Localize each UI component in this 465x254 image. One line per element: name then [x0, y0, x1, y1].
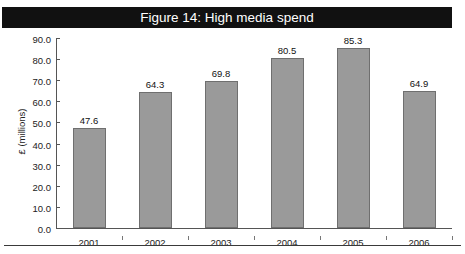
x-axis-tick-mark [452, 236, 453, 240]
y-axis-tick-mark [56, 186, 60, 187]
y-axis-tick-label: 70.0 [33, 76, 57, 87]
x-axis-tick-label: 2002 [144, 237, 165, 248]
y-axis-tick-mark [56, 122, 60, 123]
bar-value-label: 80.5 [278, 45, 297, 56]
bar: 64.9 [403, 91, 436, 228]
y-axis-tick-label: 10.0 [33, 203, 57, 214]
page-bottom-rule [4, 245, 461, 246]
y-axis-tick: 90.0 [33, 29, 57, 47]
y-axis-tick-label: 60.0 [33, 97, 57, 108]
bar: 64.3 [139, 92, 172, 228]
bar: 69.8 [205, 81, 238, 228]
y-axis-tick: 0.0 [38, 219, 56, 237]
y-axis-tick-label: 90.0 [33, 34, 57, 45]
y-axis-tick-label: 30.0 [33, 161, 57, 172]
y-axis-tick-mark [56, 80, 60, 81]
cropped-top-text-line [0, 0, 465, 7]
y-axis-tick-label: 0.0 [38, 224, 56, 235]
y-axis-tick-mark [56, 207, 60, 208]
x-axis-tick-label: 2001 [78, 237, 99, 248]
bar-chart: £ (millions) 90.080.070.060.050.040.030.… [0, 30, 465, 242]
y-axis-tick: 40.0 [33, 135, 57, 153]
plot-area: 90.080.070.060.050.040.030.020.010.00.04… [56, 38, 452, 228]
y-axis-tick: 70.0 [33, 71, 57, 89]
x-axis-tick-mark [386, 236, 387, 240]
figure-title: Figure 14: High media spend [140, 11, 313, 25]
y-axis-tick-label: 20.0 [33, 182, 57, 193]
bar-value-label: 64.9 [410, 78, 429, 89]
x-axis-tick-mark [254, 236, 255, 240]
bar-value-label: 85.3 [344, 35, 363, 46]
y-axis-tick-mark [56, 165, 60, 166]
y-axis-tick-mark [56, 38, 60, 39]
bar-value-label: 64.3 [146, 79, 165, 90]
x-axis-tick-mark [188, 236, 189, 240]
figure-title-bar: Figure 14: High media spend [2, 7, 452, 28]
y-axis-tick-label: 50.0 [33, 118, 57, 129]
bar: 80.5 [271, 58, 304, 228]
y-axis-tick: 10.0 [33, 198, 57, 216]
y-axis-tick: 30.0 [33, 156, 57, 174]
y-axis-tick-label: 80.0 [33, 55, 57, 66]
y-axis-tick: 50.0 [33, 113, 57, 131]
y-axis-tick-mark [56, 228, 60, 229]
y-axis-tick-mark [56, 101, 60, 102]
x-axis-tick-label: 2004 [276, 237, 297, 248]
x-axis-tick-mark [320, 236, 321, 240]
y-axis-tick-mark [56, 59, 60, 60]
y-axis-tick: 60.0 [33, 92, 57, 110]
x-axis-tick-mark [122, 236, 123, 240]
y-axis-title: £ (millions) [16, 92, 27, 172]
bar-value-label: 47.6 [80, 115, 99, 126]
x-axis-tick-label: 2005 [342, 237, 363, 248]
y-axis-tick: 80.0 [33, 50, 57, 68]
x-axis-tick-label: 2006 [408, 237, 429, 248]
y-axis-tick-mark [56, 144, 60, 145]
bar: 47.6 [73, 128, 106, 228]
bar-value-label: 69.8 [212, 68, 231, 79]
x-axis-line [56, 228, 452, 229]
y-axis-tick-label: 40.0 [33, 140, 57, 151]
bar: 85.3 [337, 48, 370, 228]
y-axis-tick: 20.0 [33, 177, 57, 195]
x-axis-tick-label: 2003 [210, 237, 231, 248]
